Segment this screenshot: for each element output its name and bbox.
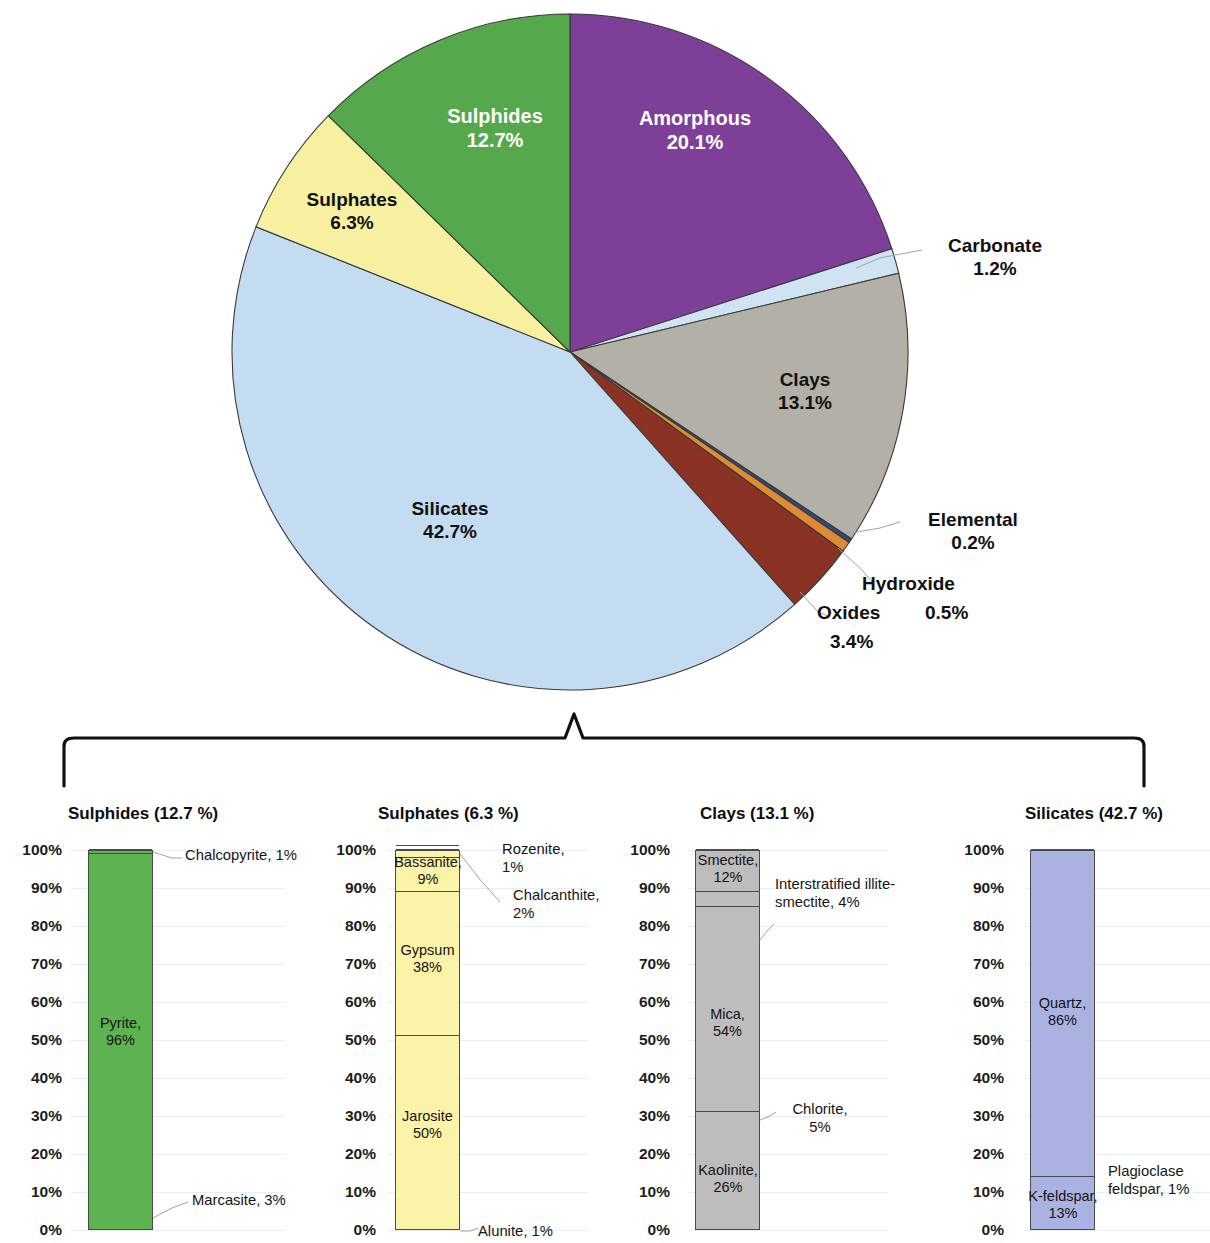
pie-label-carbonate: Carbonate 1.2%: [920, 234, 1070, 280]
callout-chlorite-l1: Chlorite,: [775, 1100, 865, 1118]
y-tick-30: 30%: [942, 1107, 1004, 1125]
callout-illite-smectite-l1: Interstratified illite-: [775, 875, 895, 893]
y-tick-50: 50%: [0, 1031, 62, 1049]
y-tick-100: 100%: [942, 841, 1004, 859]
callout-chalcopyrite: Chalcopyrite, 1%: [185, 846, 297, 864]
pie-label-hydroxide-pct-wrap: 0.5%: [925, 601, 968, 624]
y-tick-40: 40%: [0, 1069, 62, 1087]
callout-chalcanthite: Chalcanthite, 2%: [513, 886, 599, 923]
y-tick-30: 30%: [0, 1107, 62, 1125]
y-tick-40: 40%: [314, 1069, 376, 1087]
callout-chalcanthite-l1: Chalcanthite,: [513, 886, 599, 904]
bar-segment-bassanite[interactable]: [396, 857, 459, 891]
gridline: [70, 1230, 285, 1231]
pie-label-hydroxide-pct: 0.5%: [925, 601, 968, 624]
y-tick-50: 50%: [314, 1031, 376, 1049]
y-tick-40: 40%: [608, 1069, 670, 1087]
callout-alunite: Alunite, 1%: [478, 1222, 553, 1240]
bar-segment-jarosite[interactable]: [396, 1035, 459, 1225]
callout-rozenite: Rozenite, 1%: [502, 840, 565, 877]
pie-label-oxides-name: Oxides: [817, 601, 880, 624]
pie-label-elemental: Elemental 0.2%: [898, 508, 1048, 554]
callout-marcasite: Marcasite, 3%: [192, 1191, 286, 1209]
y-tick-40: 40%: [942, 1069, 1004, 1087]
bar-segment-chalcopyrite[interactable]: [89, 849, 152, 853]
callout-chlorite: Chlorite, 5%: [775, 1100, 865, 1137]
panel-sulphates-title: Sulphates (6.3 %): [378, 804, 519, 824]
y-tick-80: 80%: [0, 917, 62, 935]
y-tick-90: 90%: [942, 879, 1004, 897]
panel-sulphides: Sulphides (12.7 %) 100% 90% 80% 70% 60% …: [0, 790, 310, 1243]
y-tick-20: 20%: [942, 1145, 1004, 1163]
panel-sulphates: Sulphates (6.3 %) 100% 90% 80% 70% 60% 5…: [310, 790, 620, 1243]
stacked-bar-sulphides[interactable]: [88, 850, 153, 1230]
pie-label-oxides: Oxides: [817, 601, 880, 624]
pie-chart-svg: [0, 0, 1200, 720]
bar-segment-illite-smectite[interactable]: [696, 891, 759, 906]
y-tick-80: 80%: [314, 917, 376, 935]
bar-segment-k-feldspar[interactable]: [1031, 1180, 1094, 1229]
pie-label-hydroxide-name: Hydroxide: [862, 572, 955, 595]
pie-label-oxides-pct-wrap: 3.4%: [830, 630, 873, 653]
y-tick-70: 70%: [608, 955, 670, 973]
y-tick-70: 70%: [0, 955, 62, 973]
panel-clays: Clays (13.1 %) 100% 90% 80% 70% 60% 50% …: [590, 790, 930, 1243]
bar-segment-marcasite[interactable]: [89, 1218, 152, 1229]
grouping-brace: [60, 712, 1150, 790]
y-tick-60: 60%: [314, 993, 376, 1011]
bar-segment-chalcanthite[interactable]: [396, 849, 459, 857]
y-tick-60: 60%: [942, 993, 1004, 1011]
bar-segment-gypsum[interactable]: [396, 891, 459, 1035]
bar-segment-quartz[interactable]: [1031, 849, 1094, 1176]
y-tick-0: 0%: [942, 1221, 1004, 1239]
y-tick-90: 90%: [314, 879, 376, 897]
stacked-bar-clays[interactable]: [695, 850, 760, 1230]
bar-segment-rozenite[interactable]: [396, 845, 459, 849]
bar-segment-mica[interactable]: [696, 906, 759, 1111]
bar-segment-smectite[interactable]: [696, 849, 759, 891]
y-tick-0: 0%: [314, 1221, 376, 1239]
y-tick-80: 80%: [942, 917, 1004, 935]
y-tick-80: 80%: [608, 917, 670, 935]
stacked-bar-sulphates[interactable]: [395, 850, 460, 1230]
pie-label-hydroxide: Hydroxide: [862, 572, 955, 595]
pie-label-elemental-name: Elemental: [898, 508, 1048, 531]
bar-segment-kaolinite[interactable]: [696, 1130, 759, 1229]
callout-rozenite-l1: Rozenite,: [502, 840, 565, 858]
y-tick-90: 90%: [0, 879, 62, 897]
panel-silicates: Silicates (42.7 %) 100% 90% 80% 70% 60% …: [930, 790, 1200, 1243]
y-tick-70: 70%: [314, 955, 376, 973]
pie-label-carbonate-name: Carbonate: [920, 234, 1070, 257]
callout-plagioclase-feldspar: Plagioclase feldspar, 1%: [1108, 1162, 1189, 1199]
bar-segment-pyrite[interactable]: [89, 853, 152, 1218]
y-tick-30: 30%: [314, 1107, 376, 1125]
y-tick-50: 50%: [608, 1031, 670, 1049]
gridline: [688, 1230, 888, 1231]
y-tick-50: 50%: [942, 1031, 1004, 1049]
y-tick-10: 10%: [608, 1183, 670, 1201]
y-tick-0: 0%: [0, 1221, 62, 1239]
stacked-bar-silicates[interactable]: [1030, 850, 1095, 1230]
bar-segment-alunite[interactable]: [396, 1225, 459, 1229]
y-tick-100: 100%: [608, 841, 670, 859]
y-tick-30: 30%: [608, 1107, 670, 1125]
y-tick-100: 100%: [314, 841, 376, 859]
callout-illite-smectite: Interstratified illite- smectite, 4%: [775, 875, 895, 912]
y-tick-20: 20%: [314, 1145, 376, 1163]
y-tick-10: 10%: [314, 1183, 376, 1201]
callout-chalcanthite-l2: 2%: [513, 904, 599, 922]
y-tick-70: 70%: [942, 955, 1004, 973]
callout-chlorite-l2: 5%: [775, 1118, 865, 1136]
y-tick-10: 10%: [0, 1183, 62, 1201]
y-tick-20: 20%: [0, 1145, 62, 1163]
bar-segment-chlorite[interactable]: [696, 1111, 759, 1130]
y-tick-90: 90%: [608, 879, 670, 897]
pie-label-carbonate-pct: 1.2%: [920, 257, 1070, 280]
callout-illite-smectite-l2: smectite, 4%: [775, 893, 895, 911]
panel-silicates-title: Silicates (42.7 %): [1025, 804, 1163, 824]
y-tick-10: 10%: [942, 1183, 1004, 1201]
bar-segment-plagioclase-feldspar[interactable]: [1031, 1176, 1094, 1180]
pie-label-elemental-pct: 0.2%: [898, 531, 1048, 554]
y-tick-20: 20%: [608, 1145, 670, 1163]
y-tick-60: 60%: [608, 993, 670, 1011]
